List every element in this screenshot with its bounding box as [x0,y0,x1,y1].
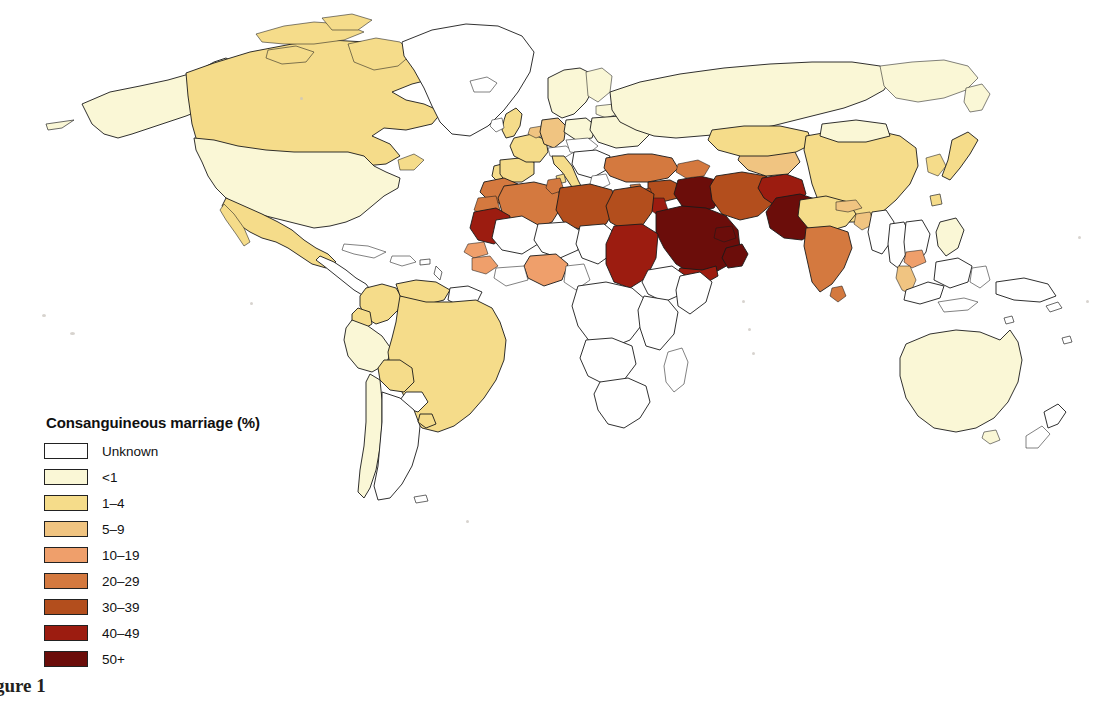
legend-label: 20–29 [102,574,140,589]
figure-caption-text: Figure 1 [0,678,46,697]
legend-swatch [44,443,88,459]
region-taiwan [930,194,942,206]
legend-swatch [44,651,88,667]
scan-speck [466,520,469,523]
legend-swatch [44,599,88,615]
legend-swatch [44,547,88,563]
scan-speck [250,302,253,305]
map-legend: Consanguineous marriage (%) Unknown<11–4… [44,414,294,672]
legend-item[interactable]: 20–29 [44,568,294,594]
scan-speck [742,300,745,303]
figure-caption: Figure 1 [0,678,1120,704]
scan-speck [1086,300,1089,303]
scan-speck [1078,236,1081,239]
legend-item[interactable]: <1 [44,464,294,490]
scan-speck [300,97,303,100]
legend-item[interactable]: 30–39 [44,594,294,620]
legend-label: 50+ [102,652,125,667]
legend-items: Unknown<11–45–910–1920–2930–3940–4950+ [44,438,294,672]
legend-item[interactable]: 40–49 [44,620,294,646]
region-turkey[interactable] [604,154,678,182]
figure-root: Consanguineous marriage (%) Unknown<11–4… [0,0,1120,704]
legend-item[interactable]: Unknown [44,438,294,464]
legend-label: 40–49 [102,626,140,641]
legend-item[interactable]: 1–4 [44,490,294,516]
legend-swatch [44,495,88,511]
legend-label: 10–19 [102,548,140,563]
region-kazakhstan[interactable] [708,126,812,156]
legend-item[interactable]: 50+ [44,646,294,672]
region-mongolia[interactable] [820,120,890,142]
legend-label: Unknown [102,444,158,459]
legend-label: 30–39 [102,600,140,615]
legend-label: 5–9 [102,522,125,537]
scan-speck [748,328,751,331]
legend-swatch [44,521,88,537]
scan-speck [42,314,46,317]
legend-item[interactable]: 5–9 [44,516,294,542]
legend-title: Consanguineous marriage (%) [46,414,294,431]
scan-speck [752,352,755,355]
legend-swatch [44,469,88,485]
legend-swatch [44,625,88,641]
scan-speck [70,332,75,335]
region-puerto-rico [420,259,430,265]
legend-swatch [44,573,88,589]
legend-item[interactable]: 10–19 [44,542,294,568]
legend-label: 1–4 [102,496,125,511]
legend-label: <1 [102,470,117,485]
